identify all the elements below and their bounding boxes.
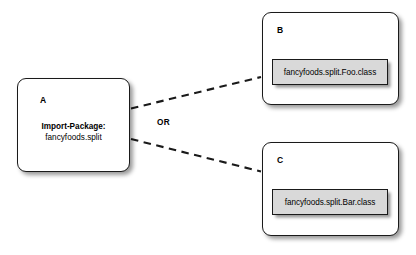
bundle-b-label: B <box>277 26 283 35</box>
bundle-a-label: A <box>40 96 46 105</box>
bundle-a-manifest: Import-Package: fancyfoods.split <box>18 121 129 143</box>
connector-a-to-c <box>131 139 261 172</box>
class-file-box-foo[interactable]: fancyfoods.split.Foo.class <box>272 59 388 85</box>
connector-a-to-b <box>131 77 261 109</box>
bundle-a[interactable]: A Import-Package: fancyfoods.split <box>17 78 130 172</box>
diagram-canvas: A Import-Package: fancyfoods.split OR B … <box>0 0 416 255</box>
bundle-c-label: C <box>277 156 283 165</box>
class-file-box-bar[interactable]: fancyfoods.split.Bar.class <box>272 189 388 215</box>
class-file-label-foo: fancyfoods.split.Foo.class <box>284 68 376 77</box>
bundle-c[interactable]: C fancyfoods.split.Bar.class <box>262 142 399 236</box>
or-label: OR <box>157 118 170 127</box>
bundle-b[interactable]: B fancyfoods.split.Foo.class <box>262 12 399 105</box>
class-file-label-bar: fancyfoods.split.Bar.class <box>285 198 376 207</box>
import-package-value: fancyfoods.split <box>18 132 129 143</box>
import-package-key: Import-Package: <box>18 121 129 132</box>
